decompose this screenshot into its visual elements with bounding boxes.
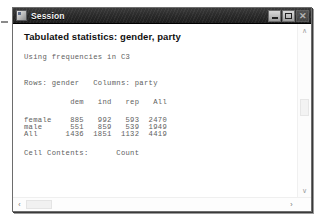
scroll-right-icon[interactable]: ›: [285, 198, 298, 211]
window-title: Session: [31, 11, 65, 21]
table-column-headers: dem ind rep All: [24, 99, 297, 106]
scroll-up-icon[interactable]: ∧: [298, 24, 311, 37]
vertical-scrollbar[interactable]: ∧ ∨: [297, 24, 311, 197]
scroll-left-icon[interactable]: ‹: [13, 198, 26, 211]
session-output-pane[interactable]: Tabulated statistics: gender, party Usin…: [13, 24, 297, 197]
output-heading: Tabulated statistics: gender, party: [24, 31, 297, 42]
horizontal-scrollbar-thumb[interactable]: [26, 200, 52, 209]
session-window: Session ✕ Tabulated statistics: gender, …: [12, 7, 312, 212]
minimize-icon: [272, 17, 278, 19]
maximize-button[interactable]: [282, 10, 295, 22]
vertical-scrollbar-thumb[interactable]: [300, 99, 309, 116]
horizontal-scrollbar[interactable]: ‹ ›: [13, 197, 311, 211]
window-controls: ✕: [268, 10, 310, 22]
left-edge-artifact: [1, 21, 8, 23]
horizontal-scrollbar-track[interactable]: [26, 198, 285, 211]
using-frequencies-line: Using frequencies in C3: [24, 54, 297, 61]
minimize-button[interactable]: [268, 10, 281, 22]
cell-contents-line: Cell Contents: Count: [24, 150, 297, 157]
rows-columns-line: Rows: gender Columns: party: [24, 80, 297, 87]
scroll-down-icon[interactable]: ∨: [298, 184, 311, 197]
maximize-icon: [285, 13, 292, 19]
close-icon: ✕: [297, 11, 308, 21]
window-body: Tabulated statistics: gender, party Usin…: [13, 23, 311, 211]
scrollbar-corner: [298, 198, 311, 211]
table-row: All 1436 1851 1132 4419: [24, 131, 297, 138]
spacer-1: [24, 61, 297, 80]
vertical-scrollbar-track[interactable]: [298, 37, 311, 184]
close-button[interactable]: ✕: [296, 10, 309, 22]
window-titlebar[interactable]: Session ✕: [13, 8, 311, 23]
content-row: Tabulated statistics: gender, party Usin…: [13, 24, 311, 197]
session-window-icon: [16, 10, 27, 21]
